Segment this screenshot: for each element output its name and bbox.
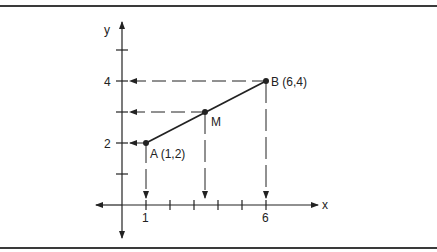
x-tick-label-6: 6 xyxy=(262,211,269,225)
point-m xyxy=(202,109,208,115)
y-tick-label-2: 2 xyxy=(104,137,111,151)
y-axis-label: y xyxy=(104,23,110,37)
point-a-label: A (1,2) xyxy=(150,147,185,161)
x-axis-label: x xyxy=(322,198,328,212)
midpoint-diagram: x y 1 6 2 4 A (1,2) M B (6,4) xyxy=(0,0,437,252)
point-b xyxy=(263,78,269,84)
point-b-label: B (6,4) xyxy=(271,75,307,89)
vertical-projections xyxy=(146,81,266,198)
figure-frame: x y 1 6 2 4 A (1,2) M B (6,4) xyxy=(0,0,437,252)
horizontal-projections xyxy=(130,81,266,143)
x-tick-label-1: 1 xyxy=(142,211,149,225)
point-m-label: M xyxy=(211,115,221,129)
point-a xyxy=(143,140,149,146)
y-tick-label-4: 4 xyxy=(104,75,111,89)
